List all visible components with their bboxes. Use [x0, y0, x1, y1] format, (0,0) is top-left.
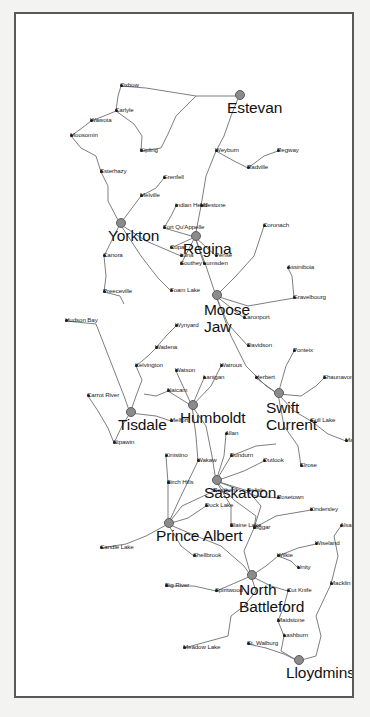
town-label-big-river: Big River — [165, 582, 189, 588]
city-label-saskatoon: Saskatoon — [204, 485, 276, 501]
map-frame: Hudson BayCarrot RiverNipawinPreeceville… — [14, 12, 354, 698]
town-label-unity: Unity — [297, 564, 311, 570]
town-label-ponteix: Ponteix — [293, 347, 313, 353]
city-marker-north-battleford[interactable] — [247, 570, 257, 580]
city-label-yorkton: Yorkton — [108, 228, 159, 244]
town-label-radville: Radville — [247, 164, 268, 170]
town-label-assiniboia: Assiniboia — [287, 264, 314, 270]
map-canvas[interactable]: Hudson BayCarrot RiverNipawinPreeceville… — [16, 14, 352, 696]
town-label-dundurn: Dundurn — [230, 452, 253, 458]
town-label-preeceville: Preeceville — [103, 288, 132, 294]
town-label-oxbow: Oxbow — [120, 82, 139, 88]
city-label-north-battleford: NorthBattleford — [239, 582, 304, 614]
town-label-wiseland: Wiseland — [315, 540, 340, 546]
town-label-carlyle: Carlyle — [115, 107, 134, 113]
city-label-moose-jaw: MooseJaw — [204, 302, 250, 334]
town-label-birch-hills: Birch Hills — [167, 479, 193, 485]
town-label-st-walburg: St. Walburg — [247, 640, 278, 646]
town-label-macklin: Macklin — [330, 580, 350, 586]
town-label-biggar: Biggar — [253, 524, 270, 530]
town-label-allan: Allan — [225, 430, 238, 436]
city-label-lloydminster: Lloydminster — [286, 665, 354, 681]
town-label-grenfell: Grenfell — [163, 174, 184, 180]
town-label-kindersley: Kindersley — [310, 506, 338, 512]
town-label-kinistino: Kinistino — [165, 452, 188, 458]
city-marker-swift-current[interactable] — [274, 388, 284, 398]
town-label-elrose: Elrose — [300, 462, 317, 468]
town-label-davidson: Davidson — [247, 342, 272, 348]
town-label-alsask: Alsask — [340, 522, 354, 528]
town-label-duck-lake: Duck Lake — [205, 502, 233, 508]
town-label-canora: Canora — [103, 252, 123, 258]
town-label-fort-qu-appelle: Fort Qu'Appelle — [163, 224, 204, 230]
town-label-maple-creek: Maple Creek — [345, 437, 354, 443]
town-label-moosomin: Moosomin — [70, 132, 98, 138]
town-label-melville: Melville — [140, 192, 160, 198]
town-label-naicam: Naicam — [167, 387, 187, 393]
town-label-shellbrook: Shellbrook — [193, 552, 221, 558]
town-label-wawota: Wawota — [90, 117, 112, 123]
town-label-southey: Southey — [180, 260, 202, 266]
map-rotation-container: Hudson BayCarrot RiverNipawinPreeceville… — [16, 14, 352, 696]
city-label-regina: Regina — [183, 241, 232, 257]
town-label-wakaw: Wakaw — [197, 457, 217, 463]
town-label-lashburn: Lashburn — [283, 632, 308, 638]
town-label-lumsden: Lumsden — [203, 260, 228, 266]
town-label-wilkie: Wilkie — [277, 552, 293, 558]
town-label-lanigan: Lanigan — [203, 374, 224, 380]
town-label-foam-lake: Foam Lake — [170, 287, 200, 293]
town-label-weyburn: Weyburn — [215, 147, 239, 153]
town-label-kipling: Kipling — [140, 147, 158, 153]
town-label-kelvington: Kelvington — [135, 362, 163, 368]
town-label-watson: Watson — [175, 367, 195, 373]
town-label-maidstone: Maidstone — [277, 617, 305, 623]
town-label-coronach: Coronach — [263, 222, 289, 228]
town-label-esterhazy: Esterhazy — [100, 168, 127, 174]
town-label-carrot-river: Carrot River — [87, 392, 119, 398]
city-label-prince-albert: Prince Albert — [156, 528, 243, 544]
city-label-humboldt: Humboldt — [180, 410, 246, 426]
town-label-outlook: Outlook — [263, 457, 284, 463]
town-label-regway: Regway — [277, 147, 299, 153]
town-label-wynyard: Wynyard — [175, 322, 199, 328]
town-label-milestone: Milestone — [200, 202, 226, 208]
town-label-herbert: Herbert — [255, 374, 275, 380]
town-label-nipawin: Nipawin — [113, 439, 134, 445]
town-label-meadow-lake: Meadow Lake — [183, 644, 220, 650]
town-label-hudson-bay: Hudson Bay — [65, 317, 98, 323]
town-label-shaunavon: Shaunavon — [323, 374, 353, 380]
town-label-rosetown: Rosetown — [277, 494, 304, 500]
city-marker-moose-jaw[interactable] — [212, 290, 222, 300]
town-label-wadena: Wadena — [155, 344, 177, 350]
town-label-watrous: Watrous — [220, 362, 242, 368]
town-label-gravelbourg: Gravelbourg — [293, 294, 326, 300]
city-label-swift-current: SwiftCurrent — [266, 400, 317, 432]
city-label-estevan: Estevan — [227, 100, 282, 116]
town-label-candle-lake: Candle Lake — [100, 544, 134, 550]
city-label-tisdale: Tisdale — [118, 417, 167, 433]
